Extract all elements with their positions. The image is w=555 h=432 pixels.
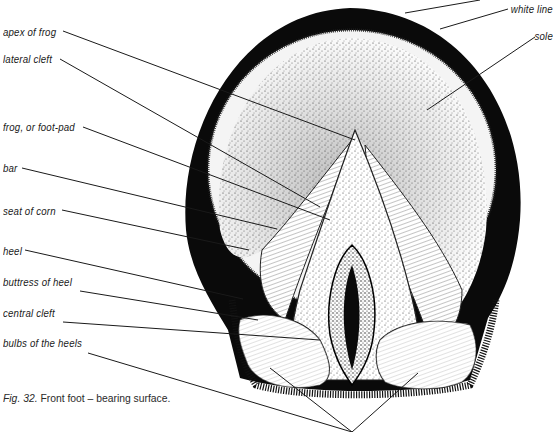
leader-wall [405,0,480,13]
figure-number: Fig. 32. [3,392,38,404]
label-seat-of-corn: seat of corn [3,205,56,217]
hoof-illustration [0,0,555,432]
label-bar: bar [3,162,18,174]
hoof-diagram-figure: apex of frog lateral cleft frog, or foot… [0,0,555,432]
label-bulbs-of-the-heels: bulbs of the heels [3,337,82,349]
label-heel: heel [3,245,22,257]
label-apex-of-frog: apex of frog [3,26,56,38]
label-sole: sole [535,30,553,42]
label-white-line: white line [511,3,553,15]
label-frog: frog, or foot-pad [3,121,75,133]
label-lateral-cleft: lateral cleft [3,53,52,65]
label-central-cleft: central cleft [3,307,55,319]
figure-caption-text: Front foot – bearing surface. [38,392,171,404]
figure-caption: Fig. 32. Front foot – bearing surface. [3,392,170,404]
leader-white-line [440,9,508,29]
label-buttress-of-heel: buttress of heel [3,276,72,288]
